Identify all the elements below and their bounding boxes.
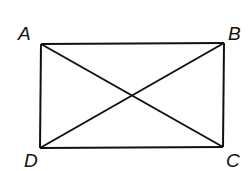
- vertex-label-d: D: [24, 150, 38, 171]
- side-bc: [223, 43, 224, 147]
- side-ab: [41, 43, 224, 44]
- side-da: [40, 44, 41, 148]
- vertex-label-b: B: [228, 23, 241, 44]
- geometry-diagram: A B C D: [0, 0, 252, 171]
- vertex-label-c: C: [226, 150, 240, 171]
- vertex-label-a: A: [17, 23, 31, 44]
- side-cd: [40, 147, 223, 148]
